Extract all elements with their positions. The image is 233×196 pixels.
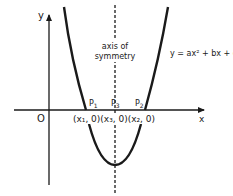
point-label-p1: P1 [89,99,98,109]
axis-of-symmetry-label-line2: symmetry [95,52,136,61]
parabola-diagram: y x O axis of symmetry y = ax² + bx + c … [0,0,233,196]
y-axis: y [38,10,49,185]
parabola-curve-right [145,7,168,110]
parabola-curve-left [64,7,86,110]
axis-of-symmetry-label-line1: axis of [102,42,128,51]
equation-label: y = ax² + bx + c [170,49,233,58]
svg-text:P2: P2 [135,99,144,109]
point-label-p3: P3 [111,99,120,109]
origin-label: O [37,113,45,124]
x-axis-label: x [199,114,205,124]
point-label-p2: P2 [135,99,144,109]
intercept-coordinates-label: (x₁, 0)(x₃, 0)(x₂, 0) [73,115,155,124]
svg-text:P1: P1 [89,99,98,109]
svg-text:P3: P3 [111,99,120,109]
y-axis-label: y [38,10,44,21]
